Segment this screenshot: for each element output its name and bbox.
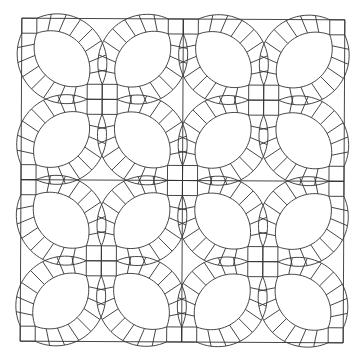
block-1-0-melon-arc-outer [35,276,106,347]
block-0-1-ring-segment [240,29,254,43]
block-0-1-ring-segment [184,67,200,78]
block-1-1-ring-segment [245,309,261,320]
block-0-0-ring-segment [78,156,92,170]
block-0-1-corner-square [329,166,344,181]
block-0-1-melon-arc-outer [259,115,330,186]
block-0-0-ring-segment [166,122,182,133]
block-0-0-ring-segment [159,110,173,124]
block-0-1-ring-segment [274,30,288,44]
block-0-0-ring-segment [154,15,158,32]
block-0-0-ring-segment [125,20,136,36]
block-0-0-corner-square [22,18,37,33]
block-0-1-melon-arc-outer [197,115,268,186]
block-0-1-ring-segment [321,77,335,91]
block-1-0-ring-segment [84,202,100,213]
block-1-1-ring-segment [246,203,262,214]
block-0-0-ring-segment [23,66,39,77]
block-0-0-ring-segment [69,163,80,179]
block-1-0-ring-segment [68,324,79,340]
block-0-1-ring-segment [184,122,200,133]
block-1-1-ring-segment [331,207,348,211]
block-1-1-melon-arc-outer [177,257,248,328]
block-1-0-center-square [86,246,101,261]
block-0-0-melon-arc-outer [36,114,107,185]
block-1-1-ring-segment [239,318,253,332]
block-1-0-ring-segment [22,227,38,238]
block-0-0-ring-segment [31,109,45,123]
block-0-0-ring-segment [70,20,81,36]
block-0-0-ring-segment [166,67,182,78]
block-1-0-ring-segment [31,237,45,251]
block-0-0-corner-square [168,19,183,34]
block-1-1-melon-arc-outer [278,196,349,267]
block-1-1-ring-segment [326,284,342,295]
block-1-0-ring-segment [158,271,172,285]
block-0-1-ring-segment [265,148,281,159]
block-0-1-ring-segment [311,83,322,99]
block-1-1-ring-segment [192,237,206,251]
block-0-1-ring-segment [315,16,319,33]
block-0-0-ring-segment [150,82,161,98]
block-0-1-ring-segment [246,148,262,159]
block-1-0-ring-segment [112,190,126,204]
block-1-0-ring-segment [57,328,64,345]
block-1-0-melon-arc-outer [116,195,187,266]
block-0-0-ring-segment [85,147,101,158]
block-1-1-ring-segment [285,182,296,198]
block-1-0-ring-segment [84,309,100,320]
block-1-0-melon-arc-outer [116,256,187,327]
block-0-1-ring-segment [320,110,334,124]
block-1-1-center-square [263,262,278,277]
block-0-1-corner-square [183,165,198,180]
block-1-1-corner-square [328,328,343,343]
block-0-1-ring-segment [247,41,263,52]
block-1-0-ring-segment [30,270,44,284]
block-0-1-ring-segment [265,42,281,53]
block-0-0-ring-segment [59,15,66,32]
block-0-0-ring-segment [48,14,52,31]
block-0-0-ring-segment [17,150,34,154]
block-0-1-ring-segment [209,15,213,32]
block-1-1-center-square [248,247,263,262]
block-1-0-ring-segment [16,312,33,316]
block-1-0-melon-arc-outer [36,175,107,246]
block-0-0-ring-segment [44,82,55,98]
block-1-0-ring-segment [17,297,34,304]
block-0-1-ring-segment [332,152,349,156]
block-1-0-ring-segment [69,181,80,197]
block-1-1-ring-segment [314,330,318,347]
block-0-1-center-square [249,100,264,115]
block-1-1-ring-segment [326,229,342,240]
block-0-0-ring-segment [112,29,126,43]
block-0-1-corner-square [183,19,198,34]
block-0-0-corner-square [167,165,182,180]
block-1-1-ring-segment [208,330,212,347]
block-1-1-ring-segment [331,313,348,317]
block-0-0-ring-segment [159,76,173,90]
block-0-1-melon-arc-outer [178,34,249,105]
block-1-1-melon-arc-outer [197,276,268,347]
block-1-1-ring-segment [330,298,347,305]
block-1-1-melon-arc-outer [197,176,268,247]
block-0-1-ring-segment [231,20,242,36]
block-0-1-ring-segment [193,76,207,90]
block-0-0-ring-segment [32,75,46,89]
block-1-0-ring-segment [78,190,92,204]
block-1-0-ring-segment [77,318,91,332]
block-1-1-ring-segment [299,329,306,346]
block-0-1-ring-segment [239,157,253,171]
block-0-1-ring-segment [332,46,349,50]
block-1-0-ring-segment [124,181,135,197]
block-1-0-corner-square [167,180,182,195]
block-1-1-ring-segment [311,263,322,279]
block-0-1-ring-segment [311,102,322,118]
block-1-1-melon-arc-outer [178,195,249,266]
block-1-0-ring-segment [43,262,54,278]
block-0-1-ring-segment [273,157,287,171]
block-1-1-ring-segment [273,191,287,205]
block-1-0-ring-segment [123,324,134,340]
block-1-1-ring-segment [311,245,322,261]
block-0-0-center-square [102,84,117,99]
block-1-1-ring-segment [320,272,334,286]
block-1-0-ring-segment [149,244,160,260]
